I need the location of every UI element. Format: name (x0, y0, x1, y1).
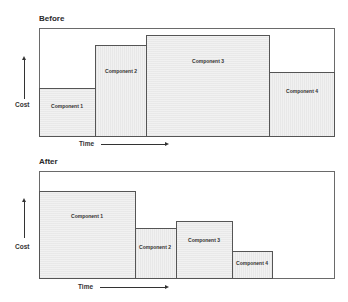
after-component-2-bar (135, 228, 177, 279)
before-component-2-bar (95, 45, 147, 137)
before-cost-arrow-icon (22, 56, 26, 60)
before-component-4-bar (269, 72, 335, 137)
before-title: Before (39, 14, 64, 23)
after-component-3-bar (176, 221, 233, 279)
after-cost-label: Cost (15, 243, 29, 250)
after-cost-arrow-icon (22, 198, 26, 202)
before-time-arrow-shaft (101, 144, 165, 145)
before-component-1-label: Component 1 (51, 103, 83, 109)
before-cost-arrow-shaft (24, 60, 25, 99)
after-component-2-label: Component 2 (139, 244, 171, 250)
after-title: After (39, 157, 58, 166)
after-time-label: Time (78, 283, 93, 290)
before-component-3-label: Component 3 (192, 58, 224, 64)
before-cost-label: Cost (15, 101, 29, 108)
after-time-arrow-icon (165, 285, 169, 289)
after-cost-arrow-shaft (24, 202, 25, 238)
before-time-label: Time (79, 140, 94, 147)
after-component-1-label: Component 1 (71, 213, 103, 219)
before-component-2-label: Component 2 (105, 68, 137, 74)
after-component-1-bar (39, 191, 136, 279)
after-time-arrow-shaft (100, 287, 165, 288)
after-component-4-label: Component 4 (236, 260, 268, 266)
after-component-3-label: Component 3 (188, 237, 220, 243)
before-component-1-bar (39, 88, 96, 137)
before-time-arrow-icon (165, 142, 169, 146)
before-component-3-bar (146, 35, 270, 137)
before-component-4-label: Component 4 (286, 88, 318, 94)
